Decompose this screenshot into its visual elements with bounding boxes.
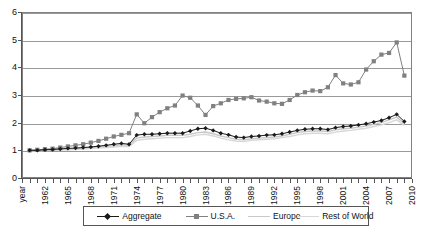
data-point: [349, 82, 353, 86]
data-point: [127, 131, 131, 135]
legend-key-icon: [186, 212, 208, 221]
x-axis-tick: [190, 179, 191, 183]
series-aggregate: [27, 112, 406, 152]
data-point: [288, 98, 292, 102]
x-axis-tick: [389, 179, 390, 183]
x-axis-tick: [343, 179, 344, 183]
data-point: [364, 67, 368, 71]
data-point: [379, 53, 383, 57]
legend-item-aggregate[interactable]: Aggregate: [84, 212, 175, 221]
legend-item-europe[interactable]: Europe: [246, 212, 303, 221]
y-axis-label: 3: [12, 91, 17, 100]
y-axis-label: 4: [12, 63, 17, 72]
legend-item-label: U.S.A.: [211, 212, 236, 221]
x-axis-label: 1983: [202, 186, 211, 205]
x-axis-tick: [404, 179, 405, 183]
x-axis-tick: [167, 179, 168, 183]
x-axis-tick: [121, 179, 122, 183]
x-axis-label: 1977: [156, 186, 165, 205]
data-point: [211, 104, 215, 108]
x-axis-tick: [206, 179, 207, 183]
data-point: [211, 128, 215, 132]
data-point: [295, 93, 299, 97]
x-axis-tick: [358, 179, 359, 183]
x-axis-tick: [305, 179, 306, 183]
x-axis-tick: [290, 179, 291, 183]
series-line: [30, 114, 405, 150]
data-point: [356, 80, 360, 84]
x-axis-tick: [53, 179, 54, 183]
x-axis-label: 1980: [179, 186, 188, 205]
x-axis-tick: [175, 179, 176, 183]
x-axis-tick: [221, 179, 222, 183]
x-axis-label: 1971: [110, 186, 119, 205]
x-axis-label: 2004: [362, 186, 371, 205]
x-axis-tick: [412, 179, 413, 183]
x-axis-tick: [351, 179, 352, 183]
x-axis-tick: [114, 179, 115, 183]
legend-marker-square-icon: [194, 214, 199, 219]
x-axis-label: 1995: [293, 186, 302, 205]
x-axis-label: 1998: [316, 186, 325, 205]
data-point: [150, 115, 154, 119]
data-point: [318, 89, 322, 93]
series-europe: [30, 117, 405, 150]
x-axis-label: 1989: [247, 186, 256, 205]
data-point: [180, 93, 184, 97]
legend-line: [248, 216, 270, 217]
data-point: [196, 103, 200, 107]
x-axis-tick: [381, 179, 382, 183]
x-axis-tick: [183, 179, 184, 183]
y-axis-label: 6: [12, 8, 17, 17]
x-axis-label: 1992: [270, 186, 279, 205]
x-axis-tick: [228, 179, 229, 183]
x-axis-tick: [129, 179, 130, 183]
data-point: [173, 103, 177, 107]
data-point: [387, 51, 391, 55]
x-axis-tick: [37, 179, 38, 183]
legend-item-label: Rest of World: [322, 212, 373, 221]
legend-item-rest-of-world[interactable]: Rest of World: [303, 212, 368, 221]
data-point: [203, 113, 207, 117]
x-axis-tick: [366, 179, 367, 183]
data-point: [303, 90, 307, 94]
x-axis-tick: [213, 179, 214, 183]
x-axis-line: [22, 178, 412, 179]
y-axis-label: 1: [12, 146, 17, 155]
data-point: [142, 121, 146, 125]
data-point: [142, 132, 146, 136]
data-point: [188, 96, 192, 100]
y-axis: 0123456: [0, 0, 22, 190]
data-point: [333, 73, 337, 77]
x-axis-tick: [83, 179, 84, 183]
legend-marker-diamond-icon: [104, 212, 111, 219]
legend-key-icon: [97, 212, 119, 221]
x-axis-tick: [106, 179, 107, 183]
data-point: [372, 59, 376, 63]
x-axis-tick: [76, 179, 77, 183]
series-u-s-a: [28, 40, 407, 152]
data-point: [112, 134, 116, 138]
data-point: [265, 100, 269, 104]
legend-item-u-s-a[interactable]: U.S.A.: [175, 212, 246, 221]
data-point: [242, 96, 246, 100]
x-axis-label: 2001: [339, 186, 348, 205]
x-axis-tick: [45, 179, 46, 183]
x-axis-tick: [98, 179, 99, 183]
x-axis-label: 2007: [385, 186, 394, 205]
x-axis-tick: [320, 179, 321, 183]
data-point: [158, 110, 162, 114]
x-axis-tick: [251, 179, 252, 183]
data-point: [165, 106, 169, 110]
y-axis-label: 2: [12, 119, 17, 128]
data-point: [402, 74, 406, 78]
data-point: [89, 140, 93, 144]
x-axis-label: 1962: [41, 186, 50, 205]
legend-key-icon: [297, 212, 319, 221]
data-point: [265, 133, 269, 137]
x-axis-label: year: [18, 186, 27, 203]
data-point: [257, 98, 261, 102]
y-axis-label: 0: [12, 174, 17, 183]
x-axis-tick: [160, 179, 161, 183]
data-point: [395, 40, 399, 44]
